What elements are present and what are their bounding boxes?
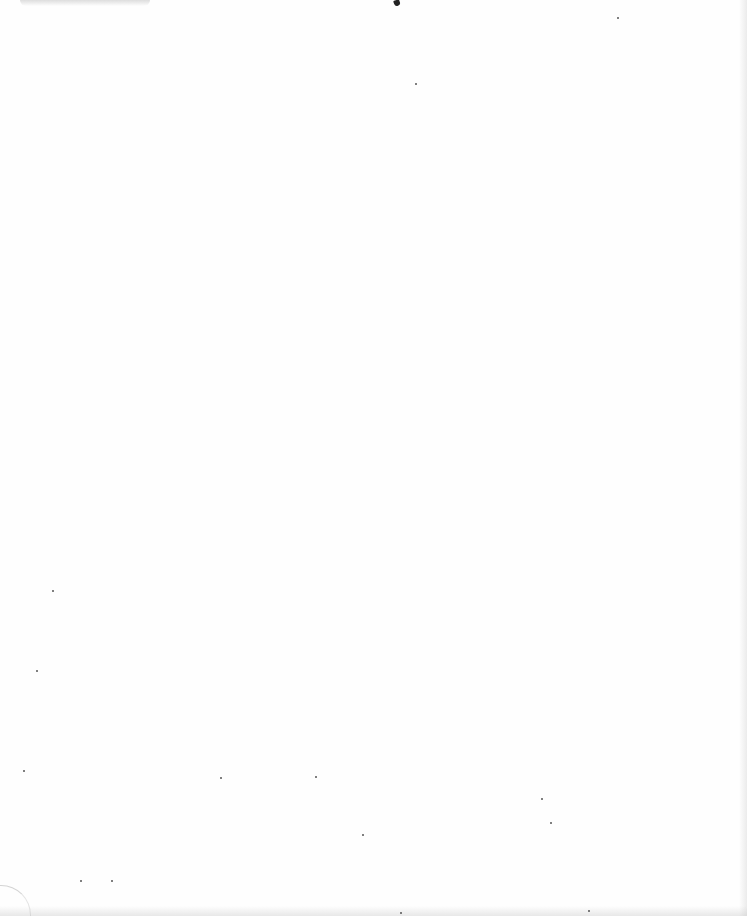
dust-speck (617, 17, 619, 19)
dust-speck (541, 798, 543, 800)
dust-speck (550, 822, 552, 824)
dust-speck (80, 880, 82, 882)
dust-speck (111, 880, 113, 882)
dust-speck (415, 83, 417, 85)
dust-speck (220, 777, 222, 779)
scanned-page (0, 0, 747, 916)
dust-speck (52, 590, 54, 592)
dust-speck (23, 770, 25, 772)
scan-edge-shadow-right (739, 0, 747, 916)
dust-speck (588, 910, 590, 912)
ink-mark (393, 0, 401, 7)
dust-speck (362, 834, 364, 836)
dust-speck (36, 670, 38, 672)
page-corner-fold (0, 885, 31, 916)
scan-edge-shadow-top (20, 0, 150, 6)
dust-speck (315, 776, 317, 778)
dust-speck (400, 912, 402, 914)
scan-edge-shadow-bottom (0, 906, 747, 916)
